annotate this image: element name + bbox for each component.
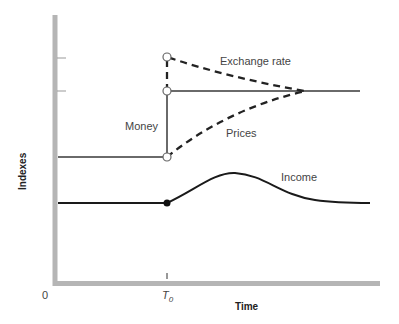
money-new-level-marker: [163, 87, 171, 95]
prices-line: [167, 91, 305, 157]
exchange-rate-peak-marker: [163, 53, 171, 61]
income-line: [58, 173, 370, 203]
money-line: [58, 91, 360, 157]
prices-label: Prices: [226, 127, 257, 139]
money-label: Money: [125, 120, 158, 132]
income-start-marker: [164, 200, 171, 207]
chart-canvas: [0, 0, 399, 324]
x-axis-label: Time: [235, 301, 258, 312]
income-label: Income: [281, 171, 317, 183]
chart-root: Indexes 0 T0 Time Money Exchange rate Pr…: [0, 0, 399, 324]
x-origin-label: 0: [42, 289, 48, 301]
money-old-level-marker: [163, 153, 171, 161]
y-axis-label: Indexes: [17, 153, 28, 190]
x-tick-t0-label: T0: [162, 289, 173, 304]
exchange-rate-label: Exchange rate: [220, 55, 291, 67]
